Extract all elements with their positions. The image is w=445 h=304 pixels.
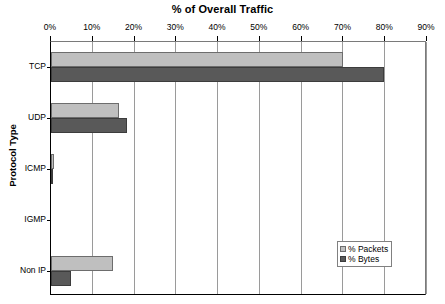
legend-swatch-packets-icon	[340, 246, 346, 252]
bar-udp-bytes	[51, 118, 127, 133]
bar-icmp-packets	[51, 154, 54, 169]
bar-non-ip-bytes	[51, 271, 71, 286]
x-tick-label: 20%	[125, 22, 142, 32]
y-tick-mark	[47, 118, 51, 119]
legend-label-bytes: % Bytes	[348, 254, 379, 264]
x-tick-label: 10%	[83, 22, 100, 32]
bar-tcp-packets	[51, 52, 343, 67]
y-tick-mark	[47, 220, 51, 221]
y-axis-title: Protocol Type	[7, 96, 18, 216]
x-tick-mark	[426, 36, 427, 41]
x-tick-label: 90%	[417, 22, 434, 32]
x-tick-label: 60%	[292, 22, 309, 32]
x-tick-label: 50%	[250, 22, 267, 32]
x-tick-label: 30%	[167, 22, 184, 32]
legend-item-packets[interactable]: % Packets	[340, 244, 388, 254]
legend-swatch-bytes-icon	[340, 256, 346, 262]
y-tick-mark	[47, 169, 51, 170]
gridline	[426, 42, 427, 294]
bar-chart: % of Overall Traffic Protocol Type 0%10%…	[0, 0, 445, 304]
y-tick-mark	[47, 67, 51, 68]
y-category-label-non-ip: Non IP	[2, 265, 46, 275]
x-tick-label: 80%	[376, 22, 393, 32]
chart-title: % of Overall Traffic	[0, 3, 445, 15]
x-axis-tick-labels: 0%10%20%30%40%50%60%70%80%90%	[0, 22, 445, 35]
y-category-label-tcp: TCP	[2, 61, 46, 71]
chart-legend[interactable]: % Packets % Bytes	[337, 241, 392, 267]
bar-udp-packets	[51, 103, 119, 118]
bar-tcp-bytes	[51, 67, 384, 82]
legend-item-bytes[interactable]: % Bytes	[340, 254, 388, 264]
x-tick-label: 70%	[334, 22, 351, 32]
legend-label-packets: % Packets	[348, 244, 388, 254]
bar-icmp-bytes	[51, 169, 53, 184]
x-tick-label: 40%	[209, 22, 226, 32]
bar-non-ip-packets	[51, 256, 113, 271]
x-tick-label: 0%	[44, 22, 56, 32]
y-tick-mark	[47, 271, 51, 272]
